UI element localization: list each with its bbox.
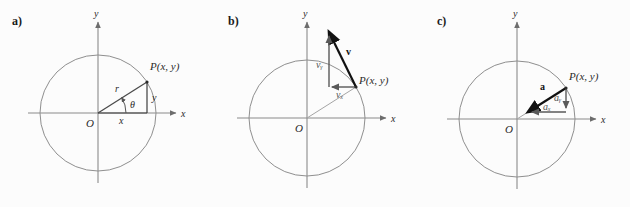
panel-c-diagram: P(x, y) a aᵧ aₓ O x y — [415, 0, 630, 207]
point-p-label: P(x, y) — [568, 70, 599, 83]
panel-a: a) P — [0, 0, 210, 207]
leg-y-label: y — [151, 92, 157, 103]
origin-label: O — [505, 123, 513, 135]
y-axis-label: y — [302, 8, 308, 19]
velocity-vector — [329, 32, 356, 87]
acceleration-y-label: aᵧ — [554, 92, 562, 103]
y-axis-label: y — [512, 8, 518, 19]
origin-label: O — [295, 122, 303, 134]
radius-line — [98, 82, 147, 113]
x-axis-label: x — [180, 108, 186, 119]
angle-arc — [122, 98, 127, 114]
velocity-vector-label: v — [346, 46, 351, 57]
origin-label: O — [86, 117, 94, 129]
point-p-marker — [564, 86, 567, 89]
panel-a-diagram: P(x, y) r θ y x O x y — [0, 0, 210, 207]
angle-label: θ — [130, 99, 135, 110]
point-p-label: P(x, y) — [149, 60, 180, 73]
panel-b: b) — [210, 0, 415, 207]
point-p-label: P(x, y) — [358, 74, 389, 87]
x-axis-label: x — [390, 113, 396, 124]
point-p-marker — [145, 80, 148, 83]
radius-line — [307, 87, 356, 118]
acceleration-vector-label: a — [540, 81, 545, 92]
y-axis-label: y — [93, 8, 99, 19]
circular-motion-figure: a) P — [0, 0, 630, 207]
panel-b-diagram: P(x, y) v vᵧ vₓ O x y — [210, 0, 415, 207]
panel-c: c) — [415, 0, 630, 207]
velocity-y-label: vᵧ — [316, 59, 323, 70]
acceleration-x-label: aₓ — [543, 101, 551, 112]
point-p-marker — [354, 85, 357, 88]
radius-label: r — [115, 83, 119, 94]
leg-x-label: x — [118, 115, 124, 126]
velocity-x-label: vₓ — [336, 89, 343, 100]
x-axis-label: x — [600, 114, 606, 125]
